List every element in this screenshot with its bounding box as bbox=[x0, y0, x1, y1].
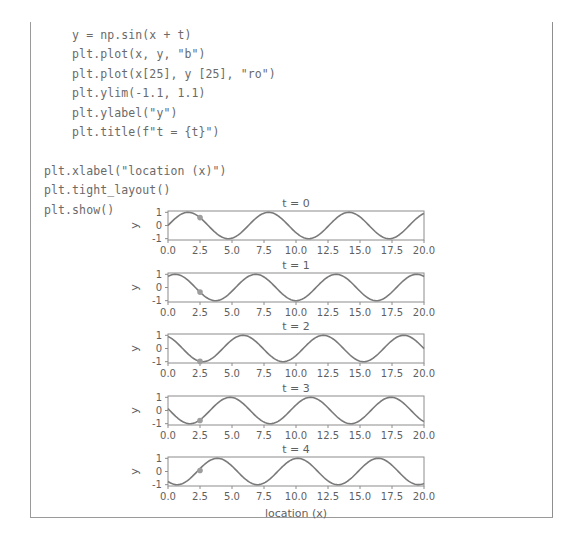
x-tick-label: 7.5 bbox=[256, 245, 272, 256]
marker-point bbox=[197, 289, 203, 295]
plot-canvas: t = 20.02.55.07.510.012.515.017.520.010-… bbox=[118, 319, 448, 381]
sine-curve bbox=[168, 274, 424, 300]
x-tick-label: 0.0 bbox=[160, 491, 176, 502]
y-tick-label: 1 bbox=[156, 453, 162, 464]
x-tick-label: 0.0 bbox=[160, 368, 176, 379]
x-tick-label: 5.0 bbox=[224, 307, 240, 318]
x-tick-label: 10.0 bbox=[285, 245, 307, 256]
x-tick-label: 15.0 bbox=[349, 368, 371, 379]
x-tick-label: 5.0 bbox=[224, 245, 240, 256]
axes-frame bbox=[168, 396, 424, 425]
x-tick-label: 10.0 bbox=[285, 491, 307, 502]
y-tick-label: 0 bbox=[156, 466, 162, 477]
x-tick-label: 2.5 bbox=[192, 430, 208, 441]
x-tick-label: 5.0 bbox=[224, 368, 240, 379]
x-tick-label: 0.0 bbox=[160, 430, 176, 441]
x-tick-label: 17.5 bbox=[381, 245, 403, 256]
subplot-title: t = 4 bbox=[282, 443, 310, 456]
y-tick-label: -1 bbox=[152, 233, 162, 244]
x-tick-label: 20.0 bbox=[413, 368, 435, 379]
plot-canvas: t = 30.02.55.07.510.012.515.017.520.010-… bbox=[118, 381, 448, 443]
sine-curve bbox=[168, 212, 424, 238]
x-tick-label: 5.0 bbox=[224, 430, 240, 441]
x-tick-label: 20.0 bbox=[413, 491, 435, 502]
x-tick-label: 15.0 bbox=[349, 307, 371, 318]
x-tick-label: 17.5 bbox=[381, 368, 403, 379]
sine-curve bbox=[168, 335, 424, 361]
x-tick-label: 12.5 bbox=[317, 307, 339, 318]
x-tick-label: 15.0 bbox=[349, 430, 371, 441]
y-axis-label: y bbox=[128, 345, 141, 352]
code-line: plt.plot(x, y, "b") bbox=[44, 45, 514, 64]
subplot-title: t = 0 bbox=[282, 197, 310, 210]
subplot-1: t = 10.02.55.07.510.012.515.017.520.010-… bbox=[118, 258, 448, 320]
x-tick-label: 20.0 bbox=[413, 245, 435, 256]
x-tick-label: 10.0 bbox=[285, 307, 307, 318]
y-tick-label: 0 bbox=[156, 282, 162, 293]
x-tick-label: 10.0 bbox=[285, 430, 307, 441]
y-tick-label: -1 bbox=[152, 418, 162, 429]
x-axis-label: location (x) bbox=[265, 507, 327, 520]
y-tick-label: 0 bbox=[156, 405, 162, 416]
x-tick-label: 12.5 bbox=[317, 430, 339, 441]
x-tick-label: 10.0 bbox=[285, 368, 307, 379]
x-tick-label: 17.5 bbox=[381, 491, 403, 502]
y-tick-label: 1 bbox=[156, 268, 162, 279]
y-axis-label: y bbox=[128, 283, 141, 290]
axes-frame bbox=[168, 211, 424, 240]
x-tick-label: 0.0 bbox=[160, 245, 176, 256]
code-line: plt.xlabel("location (x)") bbox=[44, 162, 514, 181]
plot-canvas: t = 40.02.55.07.510.012.515.017.520.010-… bbox=[118, 442, 448, 520]
x-tick-label: 20.0 bbox=[413, 307, 435, 318]
y-tick-label: 1 bbox=[156, 391, 162, 402]
x-tick-label: 5.0 bbox=[224, 491, 240, 502]
code-line: plt.title(f"t = {t}") bbox=[44, 123, 514, 142]
subplot-4: t = 40.02.55.07.510.012.515.017.520.010-… bbox=[118, 442, 448, 520]
subplot-2: t = 20.02.55.07.510.012.515.017.520.010-… bbox=[118, 319, 448, 381]
x-tick-label: 0.0 bbox=[160, 307, 176, 318]
code-block[interactable]: y = np.sin(x + t) plt.plot(x, y, "b") pl… bbox=[44, 26, 514, 220]
y-tick-label: -1 bbox=[152, 356, 162, 367]
notebook-output-page: y = np.sin(x + t) plt.plot(x, y, "b") pl… bbox=[0, 0, 582, 545]
x-tick-label: 7.5 bbox=[256, 368, 272, 379]
x-tick-label: 2.5 bbox=[192, 245, 208, 256]
x-tick-label: 17.5 bbox=[381, 307, 403, 318]
subplot-0: t = 00.02.55.07.510.012.515.017.520.010-… bbox=[118, 196, 448, 258]
x-tick-label: 12.5 bbox=[317, 491, 339, 502]
matplotlib-figure: t = 00.02.55.07.510.012.515.017.520.010-… bbox=[118, 196, 448, 514]
subplot-title: t = 2 bbox=[282, 320, 310, 333]
plot-canvas: t = 10.02.55.07.510.012.515.017.520.010-… bbox=[118, 258, 448, 320]
x-tick-label: 7.5 bbox=[256, 307, 272, 318]
marker-point bbox=[197, 359, 203, 365]
marker-point bbox=[197, 215, 203, 221]
code-line: y = np.sin(x + t) bbox=[44, 26, 514, 45]
code-line bbox=[44, 142, 514, 161]
x-tick-label: 2.5 bbox=[192, 491, 208, 502]
subplot-3: t = 30.02.55.07.510.012.515.017.520.010-… bbox=[118, 381, 448, 443]
x-tick-label: 12.5 bbox=[317, 368, 339, 379]
marker-point bbox=[197, 468, 203, 474]
x-tick-label: 7.5 bbox=[256, 491, 272, 502]
x-tick-label: 2.5 bbox=[192, 368, 208, 379]
y-axis-label: y bbox=[128, 406, 141, 413]
y-tick-label: 0 bbox=[156, 220, 162, 231]
y-tick-label: -1 bbox=[152, 479, 162, 490]
axes-frame bbox=[168, 334, 424, 363]
sine-curve bbox=[168, 458, 424, 484]
cell-border-left bbox=[30, 22, 31, 518]
subplot-title: t = 1 bbox=[282, 259, 310, 272]
y-tick-label: 0 bbox=[156, 343, 162, 354]
y-tick-label: -1 bbox=[152, 295, 162, 306]
code-line: plt.plot(x[25], y [25], "ro") bbox=[44, 65, 514, 84]
x-tick-label: 15.0 bbox=[349, 491, 371, 502]
subplot-title: t = 3 bbox=[282, 382, 310, 395]
x-tick-label: 20.0 bbox=[413, 430, 435, 441]
x-tick-label: 7.5 bbox=[256, 430, 272, 441]
x-tick-label: 17.5 bbox=[381, 430, 403, 441]
cell-border-right bbox=[552, 22, 553, 518]
x-tick-label: 15.0 bbox=[349, 245, 371, 256]
y-tick-label: 1 bbox=[156, 207, 162, 218]
code-line: plt.ylim(-1.1, 1.1) bbox=[44, 84, 514, 103]
sine-curve bbox=[168, 397, 424, 423]
marker-point bbox=[197, 417, 203, 423]
